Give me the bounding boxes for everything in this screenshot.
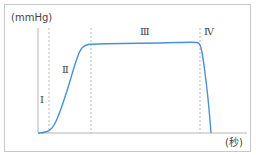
y-axis-unit-label: (mmHg) [11, 13, 52, 23]
x-axis-unit-label: (秒) [225, 138, 243, 148]
pressure-curve [38, 42, 211, 133]
pressure-chart [0, 0, 256, 157]
phase-label-3: Ⅲ [140, 27, 150, 37]
phase-label-4: Ⅳ [204, 27, 214, 37]
phase-label-1: Ⅰ [40, 95, 44, 105]
phase-label-2: Ⅱ [62, 65, 69, 75]
